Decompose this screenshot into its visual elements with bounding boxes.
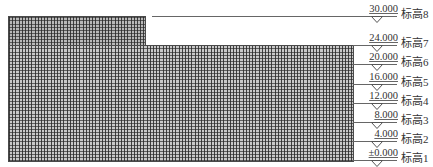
building-podium <box>8 45 354 162</box>
level-name: 标高3 <box>401 111 429 127</box>
level-name: 标高4 <box>401 92 429 108</box>
elevation-value: ±0.000 <box>369 147 398 158</box>
elevation-value: 16.000 <box>369 71 398 82</box>
level-name: 标高5 <box>401 73 429 89</box>
level-name: 标高6 <box>401 53 429 69</box>
level-name: 标高2 <box>401 130 429 146</box>
elevation-value: 30.000 <box>369 3 398 14</box>
elevation-value: 24.000 <box>369 32 398 43</box>
elevation-value: 12.000 <box>369 90 398 101</box>
level-triangle-icon <box>371 64 383 71</box>
level-name: 标高7 <box>401 34 429 50</box>
level-line <box>152 16 397 17</box>
elevation-value: 20.000 <box>369 51 398 62</box>
level-name: 标高8 <box>401 5 429 21</box>
level-triangle-icon <box>371 160 383 167</box>
level-triangle-icon <box>371 16 383 23</box>
elevation-value: 4.000 <box>374 128 398 139</box>
elevation-value: 8.000 <box>374 109 398 120</box>
level-name: 标高1 <box>401 149 429 165</box>
elevation-drawing: 30.000标高824.000标高720.000标高616.000标高512.0… <box>0 0 433 167</box>
